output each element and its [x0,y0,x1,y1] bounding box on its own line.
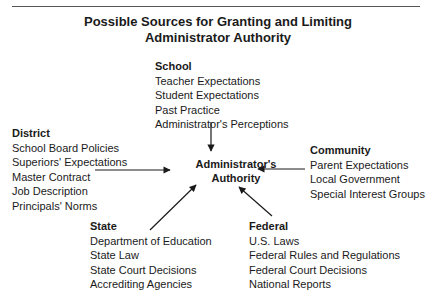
federal-arrow-icon [239,187,272,216]
state-arrow-icon [150,185,196,230]
